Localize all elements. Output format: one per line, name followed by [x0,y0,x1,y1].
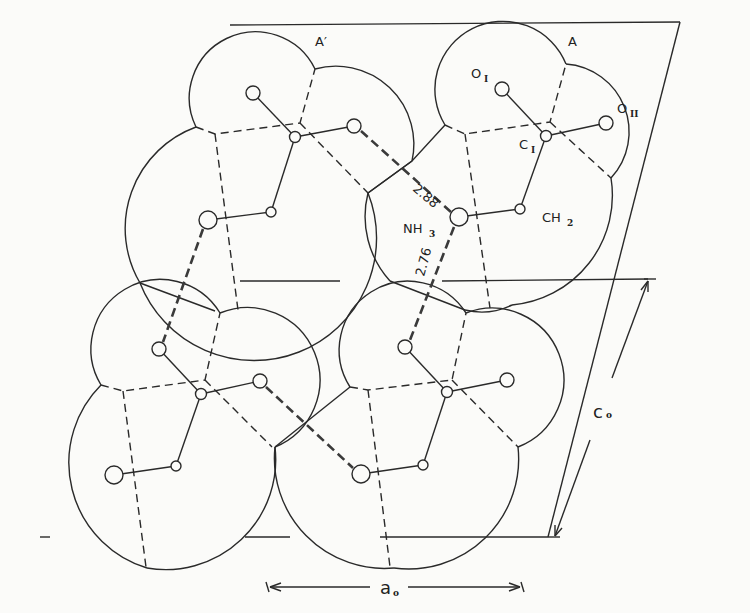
label-o2-sub: II [630,109,638,119]
label-o1-sub: I [484,74,488,84]
label-ch2-sub: 2 [567,218,573,228]
hydrogen-bonds [163,131,454,468]
label-o2: O [617,101,627,116]
molecule-lower-left [69,279,320,569]
label-c-axis: c [593,401,603,422]
molecule-a [365,21,629,312]
molecule-lower-right [274,281,563,569]
label-nh3-sub: 3 [429,229,435,239]
label-molecule-a-prime: A′ [315,34,327,49]
label-nh3: NH [403,221,423,236]
label-a-axis: a [380,577,391,598]
label-distance-lower: 2.76 [412,246,434,278]
label-c1: C [519,137,528,152]
unit-cell-outline [40,22,680,537]
label-c1-sub: I [531,145,535,155]
label-ch2: CH [542,210,561,225]
crystal-structure-diagram: A′ A O I O II C I CH 2 NH 3 2.88 2.76 a … [0,0,750,613]
label-molecule-a: A [568,34,577,49]
label-o1: O [471,66,481,81]
label-c-axis-sub: o [606,410,612,420]
label-a-axis-sub: o [393,588,399,598]
label-distance-upper: 2.88 [410,181,442,211]
